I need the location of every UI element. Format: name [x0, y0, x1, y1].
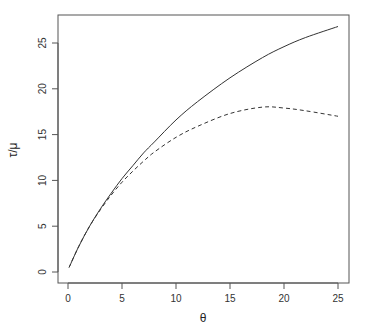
y-axis: 0510152025	[37, 37, 58, 275]
y-tick-label: 0	[37, 269, 48, 275]
x-tick-label: 5	[119, 293, 125, 304]
x-tick-label: 15	[224, 293, 236, 304]
y-axis-title: τ/μ	[6, 142, 20, 157]
y-tick-label: 20	[37, 83, 48, 95]
x-tick-label: 20	[278, 293, 290, 304]
y-tick-label: 25	[37, 37, 48, 49]
x-axis-title: θ	[200, 311, 207, 325]
plot-frame	[58, 15, 349, 283]
x-tick-label: 0	[65, 293, 71, 304]
series-dashed-line	[69, 107, 338, 268]
y-tick-label: 10	[37, 174, 48, 186]
line-chart: 0510152025 0510152025 θ τ/μ	[0, 0, 368, 335]
x-tick-label: 25	[332, 293, 344, 304]
x-tick-label: 10	[170, 293, 182, 304]
y-tick-label: 5	[37, 223, 48, 229]
y-tick-label: 15	[37, 129, 48, 141]
series-solid-line	[69, 27, 338, 268]
x-axis: 0510152025	[65, 283, 344, 304]
series-group	[69, 27, 338, 268]
